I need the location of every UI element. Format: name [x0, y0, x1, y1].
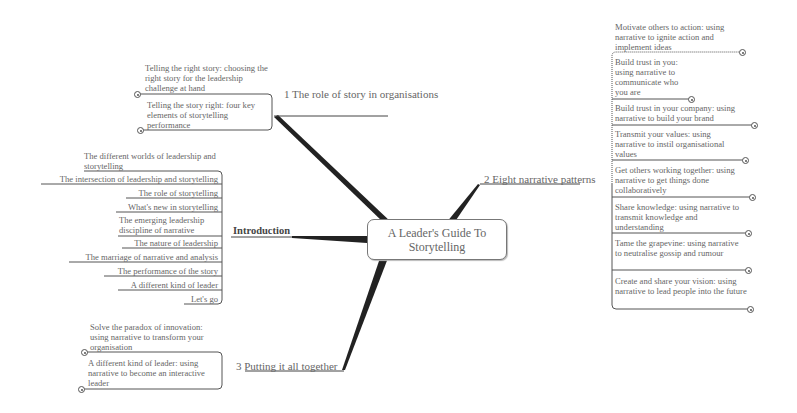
branch-eight-patterns[interactable]: 2 Eight narrative patterns — [484, 173, 596, 185]
branch-putting-together[interactable]: 3 Putting it all together — [236, 360, 337, 372]
branch-role-of-story[interactable]: 1 The role of story in organisations — [284, 88, 392, 100]
topic-telling-right-story[interactable]: Telling the right story: choosing the ri… — [145, 63, 270, 93]
topic-label: Build trust in you: using narrative to c… — [615, 57, 678, 97]
topic-whats-new[interactable]: What's new in storytelling — [110, 202, 218, 212]
central-topic[interactable]: A Leader's Guide To Storytelling — [367, 219, 507, 260]
branch-label: 2 Eight narrative patterns — [484, 173, 596, 185]
expand-icon[interactable] — [134, 91, 141, 98]
topic-label: The marriage of narrative and analysis — [86, 252, 218, 262]
topic-marriage-narrative-analysis[interactable]: The marriage of narrative and analysis — [66, 252, 218, 262]
central-topic-label: A Leader's Guide To Storytelling — [368, 226, 506, 254]
branch-label: 1 The role of story in organisations — [284, 88, 438, 100]
topic-telling-story-right[interactable]: Telling the story right: four key elemen… — [147, 100, 269, 130]
expand-icon[interactable] — [78, 386, 85, 393]
topic-role-of-storytelling[interactable]: The role of storytelling — [120, 188, 218, 198]
expand-icon[interactable] — [81, 349, 88, 356]
topic-label: Tame the grapevine: using narrative to n… — [615, 238, 738, 258]
expand-icon[interactable] — [742, 157, 749, 164]
expand-icon[interactable] — [751, 122, 758, 129]
expand-icon[interactable] — [739, 49, 746, 56]
topic-build-trust-company[interactable]: Build trust in your company: using narra… — [615, 103, 750, 123]
topic-motivate-others[interactable]: Motivate others to action: using narrati… — [615, 22, 745, 52]
expand-icon[interactable] — [137, 127, 144, 134]
topic-create-vision[interactable]: Create and share your vision: using narr… — [615, 276, 747, 296]
expand-icon[interactable] — [745, 230, 752, 237]
topic-label: Solve the paradox of innovation: using n… — [90, 322, 204, 352]
topic-intersection[interactable]: The intersection of leadership and story… — [40, 174, 218, 184]
topic-lets-go[interactable]: Let's go — [168, 294, 218, 304]
topic-working-together[interactable]: Get others working together: using narra… — [615, 165, 747, 195]
topic-label: The performance of the story — [118, 266, 218, 276]
branch-label: Introduction — [233, 225, 290, 236]
expand-icon[interactable] — [749, 194, 756, 201]
expand-icon[interactable] — [688, 96, 695, 103]
topic-label: Get others working together: using narra… — [615, 165, 735, 195]
topic-performance-of-story[interactable]: The performance of the story — [100, 266, 218, 276]
topic-label: The intersection of leadership and story… — [60, 174, 218, 184]
branch-label: 3 Putting it all together — [236, 360, 337, 372]
topic-label: Let's go — [191, 294, 218, 304]
topic-nature-of-leadership[interactable]: The nature of leadership — [116, 238, 218, 248]
topic-different-worlds[interactable]: The different worlds of leadership and s… — [84, 151, 219, 171]
topic-share-knowledge[interactable]: Share knowledge: using narrative to tran… — [615, 202, 745, 232]
topic-label: Telling the story right: four key elemen… — [147, 100, 255, 130]
topic-label: What's new in storytelling — [128, 202, 218, 212]
branch-introduction[interactable]: Introduction — [233, 225, 290, 237]
expand-icon[interactable] — [745, 267, 752, 274]
topic-build-trust-you[interactable]: Build trust in you: using narrative to c… — [615, 57, 687, 97]
topic-interactive-leader[interactable]: A different kind of leader: using narrat… — [88, 358, 220, 388]
topic-label: The emerging leadership discipline of na… — [119, 215, 204, 235]
expand-icon[interactable] — [747, 306, 754, 313]
topic-solve-paradox[interactable]: Solve the paradox of innovation: using n… — [90, 322, 220, 352]
topic-label: Transmit your values: using narrative to… — [615, 129, 724, 159]
topic-label: Motivate others to action: using narrati… — [615, 22, 724, 52]
topic-transmit-values[interactable]: Transmit your values: using narrative to… — [615, 129, 735, 159]
topic-label: A different kind of leader: using narrat… — [88, 358, 205, 388]
topic-label: Create and share your vision: using narr… — [615, 276, 747, 296]
topic-label: The different worlds of leadership and s… — [84, 151, 216, 171]
topic-label: Build trust in your company: using narra… — [615, 103, 735, 123]
topic-label: A different kind of leader — [131, 280, 218, 290]
topic-label: Share knowledge: using narrative to tran… — [615, 202, 739, 232]
topic-label: The role of storytelling — [139, 188, 218, 198]
mind-map-canvas: A Leader's Guide To Storytelling 1 The r… — [0, 0, 797, 413]
topic-label: Telling the right story: choosing the ri… — [145, 63, 268, 93]
topic-label: The nature of leadership — [134, 238, 218, 248]
topic-emerging-discipline[interactable]: The emerging leadership discipline of na… — [119, 215, 219, 235]
topic-tame-grapevine[interactable]: Tame the grapevine: using narrative to n… — [615, 238, 745, 258]
topic-different-kind-of-leader[interactable]: A different kind of leader — [114, 280, 218, 290]
